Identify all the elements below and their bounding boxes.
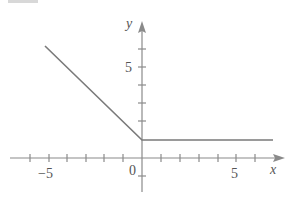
y-axis-label: y [124, 16, 133, 31]
x-axis [10, 154, 278, 162]
origin-label: 0 [129, 163, 136, 178]
graph: y x 5 0 −5 5 [0, 0, 292, 197]
y-axis [138, 30, 146, 192]
x-axis-label: x [269, 162, 277, 177]
y-tick-label-5: 5 [125, 60, 132, 75]
x-tick-label-5: 5 [231, 166, 238, 181]
function-curve [45, 46, 273, 140]
x-tick-label-neg5: −5 [38, 166, 53, 181]
